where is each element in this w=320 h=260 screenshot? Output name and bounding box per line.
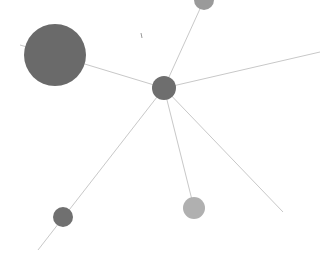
graph-node-hub[interactable]: [152, 76, 176, 100]
graph-edge: [164, 88, 283, 212]
graph-node-large[interactable]: [24, 24, 86, 86]
network-graph: [0, 0, 320, 260]
graph-node-bottom-mid[interactable]: [183, 197, 205, 219]
graph-node-bottom-left[interactable]: [53, 207, 73, 227]
stray-mark: [141, 33, 142, 38]
graph-edge: [164, 0, 204, 88]
graph-edge: [38, 88, 164, 250]
graph-edge: [164, 52, 320, 88]
nodes-layer: [24, 0, 214, 227]
graph-node-top[interactable]: [194, 0, 214, 10]
graph-edge: [164, 88, 194, 208]
